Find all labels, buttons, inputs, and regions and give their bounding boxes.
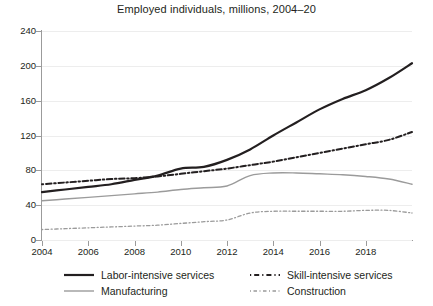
y-axis-tick-label: 0 [6, 234, 36, 245]
x-axis-tick [366, 241, 367, 246]
y-axis-tick [36, 170, 41, 171]
legend-swatch-construction [250, 285, 280, 297]
x-axis-tick-label: 2016 [300, 246, 340, 257]
legend-item-construction: Construction [250, 283, 346, 299]
y-axis-tick-label: 240 [6, 25, 36, 36]
y-axis-tick [36, 240, 41, 241]
x-axis-tick-label: 2010 [161, 246, 201, 257]
legend-item-manufacturing: Manufacturing [64, 283, 168, 299]
x-axis-tick [135, 241, 136, 246]
x-axis-tick-label: 2018 [346, 246, 386, 257]
y-axis-tick-label: 160 [6, 95, 36, 106]
chart-title: Employed individuals, millions, 2004–20 [0, 3, 433, 15]
y-axis-tick [36, 136, 41, 137]
series-line-construction [42, 210, 412, 229]
plot-area [42, 31, 412, 240]
y-axis-tick-label: 120 [6, 130, 36, 141]
x-axis-tick [88, 241, 89, 246]
y-axis-tick [36, 66, 41, 67]
y-axis-tick [36, 31, 41, 32]
series-line-skill-intensive-services [42, 132, 412, 184]
x-axis-tick [273, 241, 274, 246]
chart-legend: Labor-intensive services Manufacturing S… [0, 266, 433, 306]
x-axis-tick [227, 241, 228, 246]
legend-swatch-manufacturing [64, 285, 94, 297]
x-axis-tick-label: 2006 [68, 246, 108, 257]
legend-label-skill-intensive-services: Skill-intensive services [287, 269, 393, 281]
x-axis-tick-label: 2008 [115, 246, 155, 257]
x-axis-tick [42, 241, 43, 246]
y-axis-tick-label: 80 [6, 164, 36, 175]
legend-item-skill-intensive-services: Skill-intensive services [250, 267, 393, 283]
legend-label-construction: Construction [287, 285, 346, 297]
y-axis-labels: 04080120160200240 [0, 0, 36, 306]
y-axis-tick-label: 200 [6, 60, 36, 71]
chart-container: Employed individuals, millions, 2004–20 … [0, 0, 433, 306]
y-axis-tick [36, 101, 41, 102]
series-line-labor-intensive-services [42, 63, 412, 192]
legend-item-labor-intensive-services: Labor-intensive services [64, 267, 214, 283]
legend-swatch-labor-intensive-services [64, 269, 94, 281]
x-axis-tick-label: 2004 [22, 246, 62, 257]
y-axis-tick-label: 40 [6, 199, 36, 210]
legend-label-manufacturing: Manufacturing [101, 285, 168, 297]
legend-label-labor-intensive-services: Labor-intensive services [101, 269, 214, 281]
x-axis-tick-label: 2012 [207, 246, 247, 257]
x-axis-tick-label: 2014 [253, 246, 293, 257]
legend-swatch-skill-intensive-services [250, 269, 280, 281]
x-axis-tick [320, 241, 321, 246]
y-axis-tick [36, 205, 41, 206]
x-axis-tick [181, 241, 182, 246]
series-layer [42, 31, 412, 240]
